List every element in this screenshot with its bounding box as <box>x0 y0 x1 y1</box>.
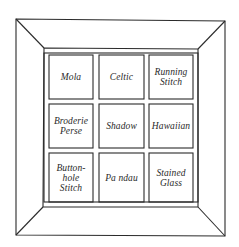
panel-label: Stained Glass <box>156 168 185 188</box>
panel-label: Pa ndau <box>105 173 138 183</box>
panel-label: Button- hole Stitch <box>56 163 85 193</box>
miter-top-right <box>198 21 225 49</box>
panel-celtic: Celtic <box>99 55 144 99</box>
panel-label: Broderie Perse <box>54 116 88 136</box>
panel-label: Hawaiian <box>152 121 190 131</box>
panel-hawaiian: Hawaiian <box>149 104 193 148</box>
panel-label: Celtic <box>110 72 133 82</box>
panel-label: Mola <box>61 72 81 82</box>
panel-stained-glass: Stained Glass <box>149 153 193 202</box>
panel-broderie-perse: Broderie Perse <box>49 104 93 148</box>
panel-running-stitch: Running Stitch <box>149 55 193 99</box>
miter-bottom-left <box>16 207 43 235</box>
panel-label: Running Stitch <box>155 67 188 87</box>
panel-shadow: Shadow <box>99 104 144 148</box>
panel-label: Shadow <box>106 121 137 131</box>
miter-bottom-right <box>198 207 225 236</box>
miter-top-left <box>16 19 44 48</box>
panel-pandau: Pa ndau <box>99 153 144 202</box>
panel-buttonhole-stitch: Button- hole Stitch <box>49 153 93 202</box>
panel-mola: Mola <box>49 55 93 99</box>
